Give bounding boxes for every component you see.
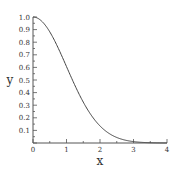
x-tick-label: 3 xyxy=(131,146,135,154)
x-tick-label: 4 xyxy=(165,146,170,154)
x-tick-label: 0 xyxy=(31,146,35,154)
x-tick-label: 2 xyxy=(98,146,102,154)
x-tick-label: 1 xyxy=(64,146,68,154)
line-chart: 012340.10.20.30.40.50.60.70.80.91.0 x y xyxy=(0,0,176,175)
axes: 012340.10.20.30.40.50.60.70.80.91.0 xyxy=(19,14,170,155)
x-axis-label: x xyxy=(97,154,104,168)
y-tick-label: 0.7 xyxy=(19,51,30,59)
y-tick-label: 1.0 xyxy=(19,14,30,22)
y-tick-label: 0.9 xyxy=(19,26,30,34)
y-tick-label: 0.6 xyxy=(19,64,31,72)
y-tick-label: 0.5 xyxy=(19,77,30,85)
y-axis-label: y xyxy=(6,73,14,87)
y-tick-label: 0.8 xyxy=(19,39,30,47)
data-line xyxy=(33,17,167,143)
y-tick-label: 0.2 xyxy=(19,114,30,122)
y-tick-label: 0.3 xyxy=(19,102,30,110)
y-tick-label: 0.1 xyxy=(19,127,30,135)
y-tick-label: 0.4 xyxy=(19,89,31,97)
